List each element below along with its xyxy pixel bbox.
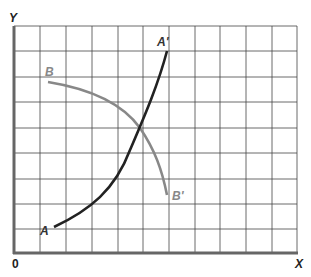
label-b-end: B' [172,189,185,203]
label-a-start: A [39,224,49,238]
y-axis-label: Y [9,11,18,25]
chart: Y X 0 A A' B B' [0,0,311,277]
label-a-end: A' [156,35,170,49]
grid [14,26,297,253]
x-axis-label: X [294,257,304,271]
origin-label: 0 [12,257,19,271]
label-b-start: B [45,65,54,79]
